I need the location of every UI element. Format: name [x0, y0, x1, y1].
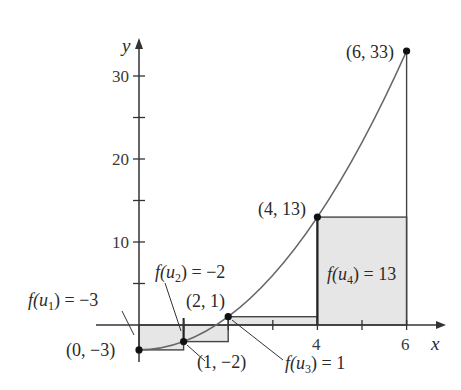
y-axis-label: y [120, 35, 131, 56]
point-0-neg3 [135, 346, 142, 353]
fu4-label: f(u4) = 13 [327, 264, 396, 287]
fu3-label: f(u3) = 1 [285, 353, 345, 376]
rectangle-1 [139, 325, 184, 350]
point-label-2-1: (2, 1) [186, 291, 225, 312]
point-6-33 [403, 47, 410, 54]
y-tick-label-10: 10 [112, 233, 129, 252]
y-tick-label-20: 20 [112, 150, 129, 169]
fu1-label: f(u1) = −3 [28, 290, 98, 313]
x-axis-label: x [430, 333, 440, 354]
point-label-1-neg2: (1, −2) [197, 352, 246, 373]
point-label-6-33: (6, 33) [346, 42, 394, 63]
y-axis-arrow-icon [135, 38, 143, 49]
point-label-4-13: (4, 13) [258, 199, 306, 220]
x-tick-label-4: 4 [312, 335, 321, 354]
y-tick-label-30: 30 [112, 67, 129, 86]
riemann-sum-diagram: 4 6 10 20 30 x y (0, −3) (1, −2) (2, 1) … [0, 0, 461, 390]
point-2-1 [225, 313, 232, 320]
point-1-neg2 [180, 338, 187, 345]
point-label-0-neg3: (0, −3) [66, 340, 115, 361]
fu2-label: f(u2) = −2 [155, 262, 225, 285]
x-axis-arrow-icon [436, 321, 446, 329]
point-4-13 [314, 214, 321, 221]
x-tick-label-6: 6 [401, 335, 410, 354]
